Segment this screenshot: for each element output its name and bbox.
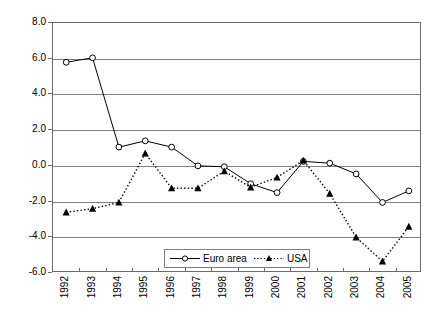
series-line-euro-area: [66, 58, 409, 203]
x-axis-tick-label: 2001: [297, 276, 307, 298]
y-axis-tick-label: -2.0: [29, 196, 46, 206]
data-point-marker: [273, 174, 280, 181]
data-point-marker: [142, 138, 148, 144]
x-axis-tick-label: 1998: [218, 276, 228, 298]
x-axis-tick-label: 1994: [113, 276, 123, 298]
x-axis-tick-label: 1999: [245, 276, 255, 298]
y-axis-tick-label: -4.0: [29, 231, 46, 241]
legend-entry-usa: USA: [254, 253, 308, 264]
chart-container: 8.06.04.02.00.0-2.0-4.0-6.0 199219931994…: [0, 0, 442, 328]
data-point-marker: [169, 144, 175, 150]
data-point-marker: [380, 200, 386, 206]
y-tick-mark: [48, 272, 52, 273]
y-axis-tick-label: 8.0: [32, 17, 46, 27]
x-axis-tick-label: 2003: [350, 276, 360, 298]
data-point-marker: [406, 188, 412, 194]
series-line-usa: [66, 153, 409, 261]
data-point-marker: [142, 150, 149, 157]
chart-legend: Euro area USA: [164, 249, 310, 268]
x-axis-tick-label: 1996: [166, 276, 176, 298]
data-point-marker: [353, 233, 360, 240]
x-axis-tick-label: 2004: [376, 276, 386, 298]
data-point-marker: [405, 223, 412, 230]
x-axis-tick-label: 2002: [324, 276, 334, 298]
data-point-marker: [115, 199, 122, 206]
y-axis-tick-label: 2.0: [32, 124, 46, 134]
data-point-marker: [63, 208, 70, 215]
legend-label-usa: USA: [287, 254, 308, 264]
data-point-marker: [353, 171, 359, 177]
y-axis-tick-label: 4.0: [32, 88, 46, 98]
plot-area: [52, 22, 421, 272]
x-axis-tick-label: 1992: [60, 276, 70, 298]
series-layer: [53, 23, 422, 273]
legend-swatch-euro-area-icon: [170, 253, 200, 264]
legend-entry-euro-area: Euro area: [170, 253, 247, 264]
data-point-marker: [274, 190, 280, 196]
x-axis-labels: 1992199319941995199619971998199920002001…: [0, 276, 442, 326]
data-point-marker: [327, 160, 333, 166]
data-point-marker: [116, 144, 122, 150]
data-point-marker: [379, 258, 386, 265]
data-point-marker: [63, 59, 69, 65]
data-point-marker: [195, 163, 201, 169]
x-axis-tick-label: 2005: [403, 276, 413, 298]
x-axis-tick-label: 1995: [139, 276, 149, 298]
x-axis-tick-label: 2000: [271, 276, 281, 298]
x-axis-tick-label: 1993: [87, 276, 97, 298]
legend-label-euro-area: Euro area: [203, 254, 247, 264]
legend-swatch-usa-icon: [254, 253, 284, 264]
x-axis-tick-label: 1997: [192, 276, 202, 298]
y-axis-tick-label: 6.0: [32, 53, 46, 63]
data-point-marker: [90, 55, 96, 61]
y-axis-tick-label: 0.0: [32, 160, 46, 170]
